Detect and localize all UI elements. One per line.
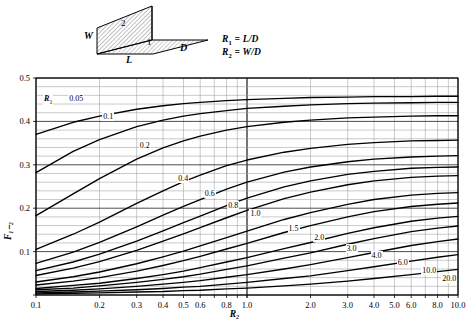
equation-r1-rhs: = L/D [232, 34, 259, 44]
depth-label: D [180, 42, 187, 53]
length-label: L [126, 54, 132, 65]
surface-2-number: 2 [121, 18, 126, 28]
curve-label-r1-0.8: 0.8 [227, 201, 239, 210]
curve-label-r1-0.2: 0.2 [139, 141, 151, 150]
y-tick-label: 0.4 [0, 116, 30, 126]
curve-label-r1-3.0: 3.0 [346, 244, 358, 253]
curve-label-r1-6.0: 6.0 [397, 258, 409, 267]
equation-r2: R2 = W/D [222, 47, 261, 59]
geometry-schematic: W L D 2 1 R1 = L/D R2 = W/D [0, 0, 469, 72]
curve-label-r1-0.05: 0.05 [68, 94, 84, 103]
width-label: W [84, 30, 93, 41]
curve-label-r1-0.6: 0.6 [204, 189, 216, 198]
equation-r1: R1 = L/D [222, 34, 259, 46]
equation-r2-rhs: = W/D [232, 47, 261, 57]
y-tick-label: 0.1 [0, 247, 30, 257]
curve-label-r1-0.1: 0.1 [102, 112, 114, 121]
curve-label-r1-1.5: 1.5 [288, 224, 300, 233]
x-axis-label-text: R₂ [230, 309, 240, 319]
curve-label-r1-2.0: 2.0 [313, 233, 325, 242]
parameter-name-tag: R1 [43, 94, 53, 107]
y-axis-label-text: F₁₋₂ [3, 222, 13, 240]
x-axis-label: R₂ [0, 309, 469, 319]
surface-1-number: 1 [147, 37, 152, 47]
figure-root: W L D 2 1 R1 = L/D R2 = W/D 00.10.20.30.… [0, 0, 469, 325]
y-axis-label: F₁₋₂ [2, 222, 13, 240]
curve-label-r1-1.0: 1.0 [249, 209, 261, 218]
view-factor-chart: 00.10.20.30.40.50.10.20.30.40.50.60.81.0… [0, 72, 469, 325]
curve-label-r1-0.4: 0.4 [177, 174, 189, 183]
plot-svg [0, 72, 469, 325]
y-tick-label: 0.2 [0, 203, 30, 213]
curve-label-r1-20.0: 20.0 [441, 274, 457, 283]
y-tick-label: 0.5 [0, 73, 30, 83]
curve-label-r1-10.0: 10.0 [421, 266, 437, 275]
y-tick-label: 0.3 [0, 160, 30, 170]
curve-label-r1-4.0: 4.0 [371, 251, 383, 260]
